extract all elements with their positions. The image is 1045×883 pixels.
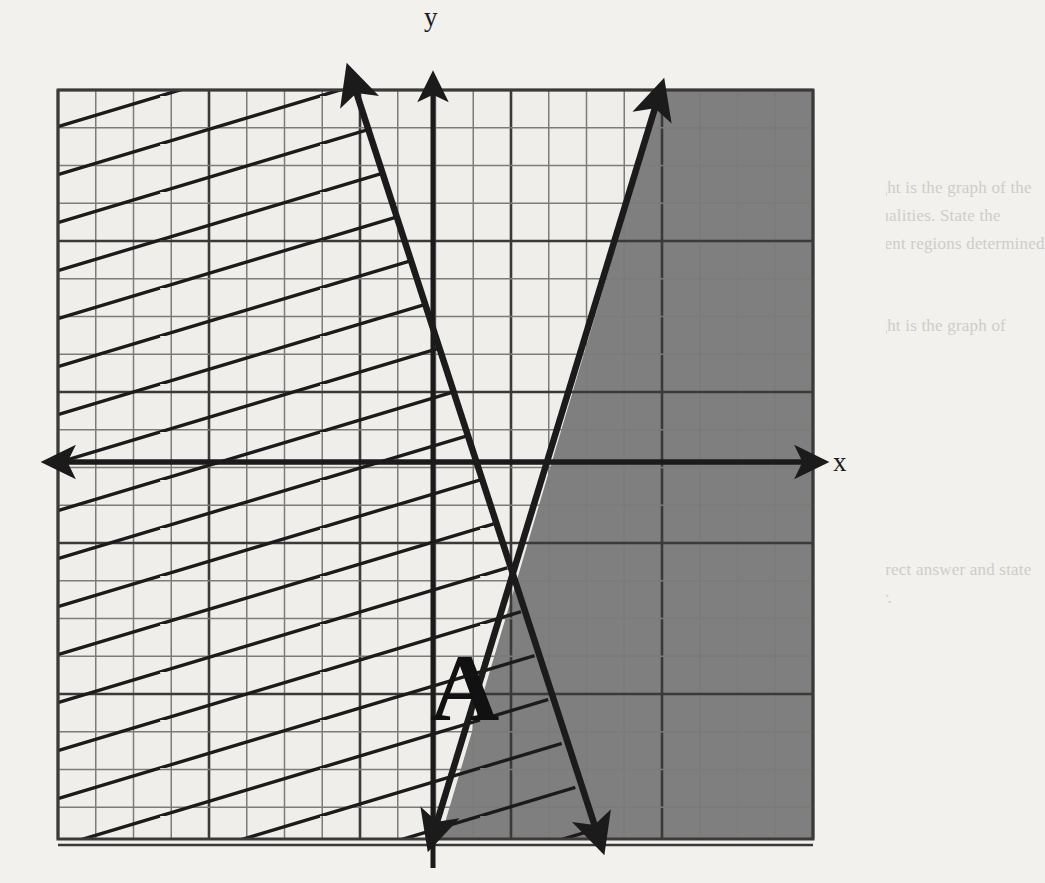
region-a-label: A [430,640,499,736]
x-axis-label: x [833,447,847,478]
y-axis-label: y [424,2,438,33]
